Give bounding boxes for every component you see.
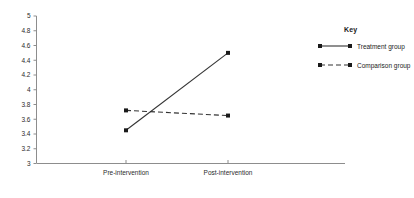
y-tick-label: 4.6 <box>21 42 30 49</box>
legend-item-comparison-group: Comparison group <box>318 61 414 69</box>
y-tick-label: 4.8 <box>21 27 30 34</box>
x-tick-group <box>126 160 228 164</box>
series-line <box>126 110 228 115</box>
legend-title: Key <box>344 26 414 33</box>
chart-legend: Key Treatment group Comparison group <box>318 26 414 80</box>
series-layer <box>124 51 230 132</box>
y-tick-label: 3.2 <box>21 145 30 152</box>
x-axis-group <box>37 160 346 164</box>
legend-label-comparison-group: Comparison group <box>357 62 410 69</box>
data-point-marker <box>124 108 128 112</box>
y-tick-label: 4.4 <box>21 57 30 64</box>
y-tick-label: 3.8 <box>21 101 30 108</box>
x-tick-label-group: Pre-interventionPost-intervention <box>103 169 253 176</box>
legend-item-treatment-group: Treatment group <box>318 42 414 50</box>
series-line <box>126 53 228 130</box>
y-tick-label: 4 <box>27 86 31 93</box>
data-point-marker <box>226 51 230 55</box>
data-point-marker <box>124 128 128 132</box>
y-tick-label: 4.2 <box>21 71 30 78</box>
y-tick-label: 3.6 <box>21 116 30 123</box>
y-tick-label: 3.4 <box>21 130 30 137</box>
legend-swatch-dashed-icon <box>318 61 352 69</box>
x-tick-label: Post-intervention <box>204 169 253 176</box>
series-comparison-group <box>124 108 230 117</box>
legend-label-treatment-group: Treatment group <box>357 43 405 50</box>
x-tick-label: Pre-intervention <box>103 169 149 176</box>
y-tick-label: 3 <box>27 160 31 167</box>
y-tick-group: 54.84.64.44.243.83.63.43.23 <box>21 12 36 167</box>
chart-root: 54.84.64.44.243.83.63.43.23 Pre-interven… <box>0 0 414 198</box>
y-tick-label: 5 <box>27 12 31 19</box>
series-treatment-group <box>124 51 230 132</box>
data-point-marker <box>226 114 230 118</box>
y-axis-group: 54.84.64.44.243.83.63.43.23 <box>21 12 36 167</box>
legend-swatch-solid-icon <box>318 42 352 50</box>
